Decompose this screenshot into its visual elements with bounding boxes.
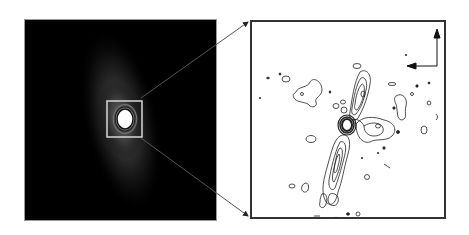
- side-lobe-contours: [356, 117, 395, 142]
- nw-blob-contour: [293, 80, 322, 107]
- figure: [0, 0, 469, 235]
- contour-map-panel: [250, 20, 446, 219]
- compass-arrows-icon: [407, 29, 440, 69]
- contour-map: [252, 22, 444, 217]
- noise-contours: [259, 54, 437, 217]
- jet-contours-sw: [323, 135, 350, 206]
- jet-contours-ne: [350, 64, 371, 121]
